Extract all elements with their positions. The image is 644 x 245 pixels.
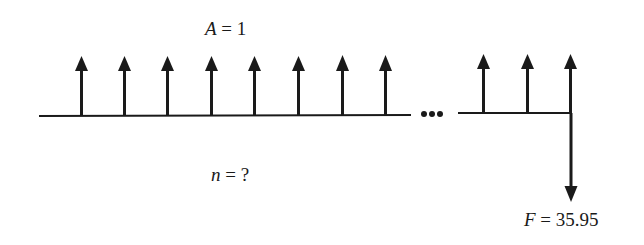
periods-label: n = ? (211, 164, 249, 186)
annuity-variable: A (205, 18, 217, 39)
payment-arrows (75, 54, 577, 116)
periods-value: ? (241, 164, 249, 185)
up-arrow-icon (118, 56, 131, 116)
future-equals: = (536, 209, 556, 230)
future-value: 35.95 (556, 209, 599, 230)
ellipsis-dots (421, 111, 443, 117)
annuity-label: A = 1 (205, 18, 246, 40)
time-axis-left (39, 115, 411, 116)
up-arrow-icon (379, 55, 392, 115)
future-variable: F (524, 209, 536, 230)
down-arrow-icon (565, 113, 578, 202)
periods-variable: n (211, 164, 221, 185)
annuity-equals: = (217, 18, 237, 39)
up-arrow-icon (336, 55, 349, 115)
up-arrow-icon (248, 56, 261, 116)
up-arrow-icon (205, 56, 218, 116)
annuity-value: 1 (237, 18, 247, 39)
up-arrow-icon (75, 56, 88, 116)
up-arrow-icon (521, 54, 534, 113)
up-arrow-icon (564, 54, 577, 113)
up-arrow-icon (292, 56, 305, 116)
up-arrow-icon (161, 56, 174, 116)
periods-equals: = (221, 164, 241, 185)
up-arrow-icon (477, 54, 490, 113)
future-value-label: F = 35.95 (524, 209, 599, 231)
